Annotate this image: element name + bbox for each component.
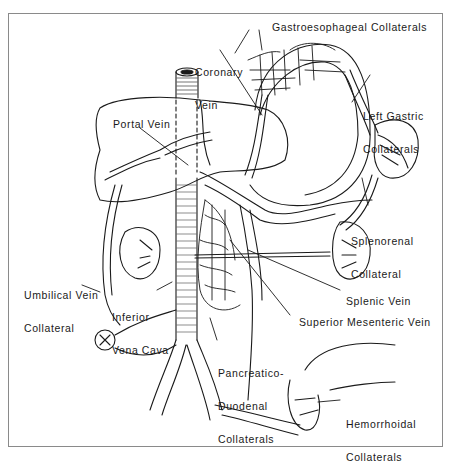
- label-portal-vein: Portal Vein: [113, 119, 170, 130]
- label-hemorrhoidal-collaterals: Hemorrhoidal Collaterals: [346, 397, 416, 465]
- label-splenic-vein: Splenic Vein: [346, 296, 411, 307]
- label-left-gastric-collaterals: Left Gastric Collaterals: [363, 89, 424, 166]
- label-ivc-line2: Vena Cava: [112, 345, 169, 356]
- label-superior-mesenteric-vein: Superior Mesenteric Vein: [299, 317, 431, 328]
- label-left-gastric-line1: Left Gastric: [363, 111, 424, 122]
- coronary-vein: [245, 95, 268, 178]
- label-splenorenal-line1: Splenorenal: [351, 236, 414, 247]
- inferior-vena-cava: [176, 178, 197, 340]
- label-pancreaticoduodenal-collaterals: Pancreatico- Duodenal Collaterals: [218, 346, 284, 456]
- label-umbilical-vein-collateral: Umbilical Vein Collateral: [24, 268, 98, 345]
- gastroesophageal-network: [248, 43, 345, 95]
- portal-branch: [105, 132, 212, 180]
- label-coronary-line2: Vein: [195, 100, 243, 111]
- ivc-hatching: [177, 185, 196, 332]
- label-splenorenal-collateral: Splenorenal Collateral: [351, 214, 414, 291]
- hemorrhoidal-network: [288, 380, 319, 430]
- label-pancreatico-line3: Collaterals: [218, 434, 284, 445]
- portal-trunk: [200, 172, 372, 214]
- label-hemorrhoidal-line2: Collaterals: [346, 452, 416, 463]
- left-kidney: [120, 228, 160, 279]
- crossing-vessel: [195, 252, 330, 258]
- label-umbilical-line1: Umbilical Vein: [24, 290, 98, 301]
- label-splenorenal-line2: Collateral: [351, 269, 414, 280]
- label-coronary-vein: Coronary Vein: [195, 45, 243, 122]
- label-ivc-line1: Inferior: [112, 312, 169, 323]
- label-umbilical-line2: Collateral: [24, 323, 98, 334]
- label-coronary-line1: Coronary: [195, 67, 243, 78]
- rectum: [305, 343, 395, 390]
- stomach-outline: [250, 44, 370, 205]
- label-inferior-vena-cava: Inferior Vena Cava: [112, 290, 169, 367]
- label-hemorrhoidal-line1: Hemorrhoidal: [346, 419, 416, 430]
- label-gastroesophageal-collaterals: Gastroesophageal Collaterals: [272, 22, 427, 33]
- label-pancreatico-line2: Duodenal: [218, 401, 284, 412]
- label-pancreatico-line1: Pancreatico-: [218, 368, 284, 379]
- label-left-gastric-line2: Collaterals: [363, 144, 424, 155]
